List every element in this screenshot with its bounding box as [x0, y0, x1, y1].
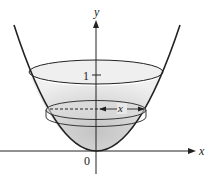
paraboloid-diagram: x x y 1 0 [0, 0, 206, 189]
x-axis-label: x [198, 144, 205, 158]
radius-label: x [117, 102, 123, 114]
origin-label: 0 [84, 154, 90, 168]
x-axis-arrow-icon [188, 148, 196, 154]
y-axis-label: y [93, 5, 100, 19]
diagram-svg: x x y 1 0 [0, 0, 206, 189]
y-axis-arrow-icon [93, 20, 99, 28]
y-tick-label-1: 1 [83, 69, 89, 83]
